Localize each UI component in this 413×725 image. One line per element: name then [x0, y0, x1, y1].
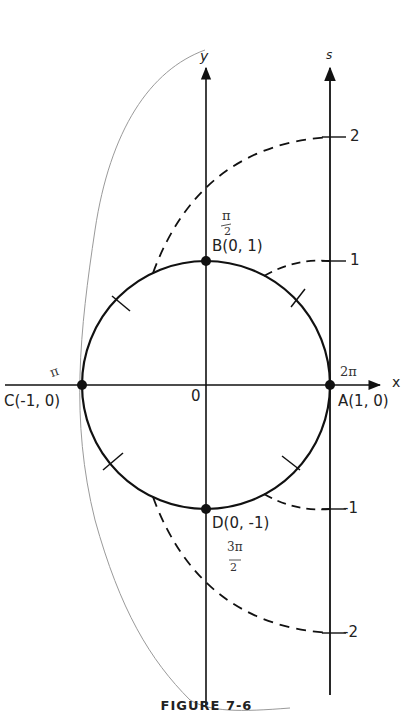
s-tick-label-neg2: -2 — [343, 623, 358, 641]
circle-tick-135 — [112, 296, 130, 311]
handwritten-3pi-over-2-num: 3π — [227, 540, 243, 554]
unit-circle-diagram — [0, 0, 413, 725]
point-label-B: B(0, 1) — [212, 237, 263, 255]
point-label-A: A(1, 0) — [338, 392, 389, 410]
circle-tick-315 — [282, 456, 300, 470]
handwritten-3pi-over-2-den: 2 — [230, 561, 237, 574]
s-axis-label: s — [326, 48, 332, 62]
point-C — [77, 380, 87, 390]
wrap-arc-neg1 — [264, 494, 330, 509]
s-tick-label-neg1: -1 — [343, 499, 358, 517]
origin-label: 0 — [191, 387, 201, 405]
point-label-D: D(0, -1) — [212, 514, 269, 532]
point-label-C: C(-1, 0) — [4, 392, 60, 410]
figure-caption: FIGURE 7-6 — [0, 698, 413, 713]
pencil-stroke — [80, 50, 290, 710]
s-tick-label-1: 1 — [350, 251, 360, 269]
handwritten-pi-over-2-den: 2 — [224, 225, 231, 238]
s-tick-label-2: 2 — [350, 127, 360, 145]
handwritten-pi-over-2-num: π — [222, 208, 231, 223]
wrap-arc-1 — [264, 261, 330, 276]
point-D — [201, 504, 211, 514]
point-A — [325, 380, 335, 390]
point-B — [201, 256, 211, 266]
x-axis-label: x — [392, 374, 400, 390]
handwritten-2pi: 2π — [340, 364, 357, 379]
y-axis-label: y — [200, 48, 208, 64]
